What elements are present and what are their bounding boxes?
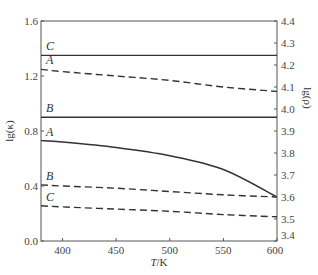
y-left-tick-label: 0.8 <box>24 125 38 137</box>
y-right-tick-label: 4.0 <box>281 103 295 115</box>
y-right-tick-label: 3.9 <box>281 125 295 137</box>
y-right-tick-label: 4.3 <box>281 37 295 49</box>
curve-a-solid <box>41 141 277 197</box>
y-left-tick-label: 0.4 <box>24 180 38 192</box>
x-tick-label: 400 <box>54 244 71 256</box>
curve-label-a-solid: A <box>45 125 54 139</box>
x-tick-label: 450 <box>108 244 125 256</box>
y-right-tick-label: 4.2 <box>281 59 295 71</box>
x-tick-label: 600 <box>267 244 284 256</box>
axis-ticks: 4004505005506000.00.40.81.21.63.43.53.63… <box>24 15 295 256</box>
curve-label-c-dashed: C <box>46 190 55 204</box>
curve-c-dashed <box>41 206 277 217</box>
x-axis-title-unit: /K <box>157 256 168 268</box>
curves: CABABC <box>41 39 277 216</box>
y-right-tick-label: 3.7 <box>281 169 295 181</box>
y-right-tick-label: 3.5 <box>281 213 295 225</box>
curve-b-dashed <box>41 185 277 197</box>
y-left-tick-label: 1.2 <box>24 70 38 82</box>
y-right-tick-label: 3.6 <box>281 191 295 203</box>
curve-label-c-solid: C <box>46 39 55 53</box>
x-axis-title: T/K <box>150 256 167 268</box>
y-right-tick-label: 3.8 <box>281 147 295 159</box>
curve-label-a-dashed: A <box>45 53 54 67</box>
y-axis-left-title: lg(κ) <box>3 120 16 142</box>
curve-label-b-solid: B <box>46 101 54 115</box>
y-left-tick-label: 1.6 <box>24 15 38 27</box>
y-right-tick-label: 4.1 <box>281 81 295 93</box>
y-left-tick-label: 0.0 <box>24 235 38 247</box>
y-right-tick-label: 4.4 <box>281 15 295 27</box>
y-right-tick-label: 3.4 <box>281 229 295 241</box>
x-tick-label: 500 <box>161 244 178 256</box>
curve-a-dashed <box>41 69 277 91</box>
y-axis-right-title: lg(ρ) <box>301 87 314 109</box>
dual-axis-line-chart: CABABC 4004505005506000.00.40.81.21.63.4… <box>0 0 318 275</box>
x-tick-label: 550 <box>215 244 232 256</box>
curve-label-b-dashed: B <box>46 169 54 183</box>
